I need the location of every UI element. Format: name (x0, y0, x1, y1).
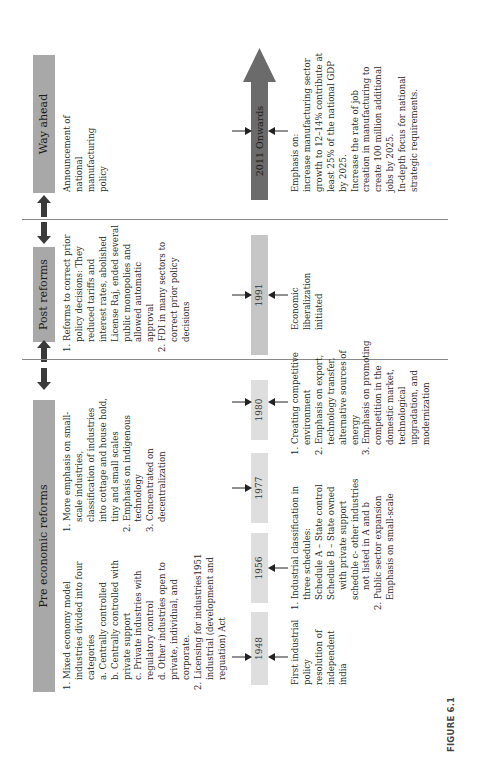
block-arrow-right-icon (37, 195, 51, 217)
pointer-arrow-up-icon (268, 291, 288, 299)
post-reforms-item: 1. Reforms to correct prior policy decis… (62, 224, 157, 352)
pointer-arrow-down-icon (232, 127, 252, 135)
pre-reforms-subitem: c. Private industries with regulatory co… (133, 540, 157, 690)
pointer-arrow-down-icon (232, 484, 252, 492)
timeline-desc-line: 2. Public sector expansion (373, 468, 385, 610)
timeline-desc-2011: Emphasis on: increase manufacturing sect… (290, 52, 421, 192)
timeline-desc-line: Emphasis on small-scale (385, 468, 397, 610)
pre-reforms-col1-text: 1. Mixed economy model industries divide… (62, 540, 229, 690)
pointer-arrow-up-icon (268, 564, 288, 572)
timeline-desc-1956: 1. Industrial classification in three sc… (290, 468, 397, 610)
section-divider (22, 219, 448, 220)
timeline-desc-line: In-depth focus for national strategic re… (397, 52, 421, 192)
pointer-arrow-down-icon (232, 653, 252, 661)
timeline-desc-line: increase manufacturing sector growth to … (302, 52, 350, 192)
timeline-desc-line: Schedule A – State control (314, 468, 326, 610)
timeline-desc-line: 2. Emphasis on export, technology transf… (314, 337, 362, 455)
header-post-reforms: Post reforms (33, 247, 55, 342)
timeline-desc-1991: Economic liberalization initiated (290, 250, 326, 330)
figure-page: Pre economic reforms Post reforms Way ah… (0, 0, 480, 760)
pre-reforms-subitem: d. Other industries open to private, ind… (157, 540, 193, 690)
timeline-desc-line: schedule c- other industries not listed … (350, 468, 374, 610)
rotated-diagram: Pre economic reforms Post reforms Way ah… (0, 0, 480, 760)
pre-reforms-item: 3. Concentrated on decentralization (145, 397, 169, 532)
timeline-desc-1948: First industrial policy resolution of in… (290, 615, 350, 685)
pre-reforms-item: 1. Mixed economy model industries divide… (62, 540, 98, 690)
figure-caption-label: FIGURE 6.1 (446, 697, 456, 752)
block-arrow-left-icon (37, 368, 51, 390)
pointer-arrow-down-icon (232, 398, 252, 406)
block-arrow-left-icon (37, 222, 51, 244)
post-reforms-item: 2. FDI in many sectors to correct prior … (157, 224, 193, 352)
year-box-1977: 1977 (251, 453, 268, 523)
pointer-arrow-up-icon (268, 127, 288, 135)
pointer-arrow-up-icon (268, 398, 288, 406)
timeline-desc-line: 1. Industrial classification in three sc… (290, 468, 314, 610)
timeline-desc-1980: 1. Creating competitive environment 2. E… (290, 337, 433, 455)
year-box-2011-onwards: 2011 Onwards (251, 82, 268, 200)
pre-reforms-item: 1. More emphasis on small-scale industri… (62, 397, 122, 532)
pre-reforms-item: 2. Emphasis on indigenous technology (122, 397, 146, 532)
timeline-desc-line: First industrial policy resolution of in… (290, 615, 350, 685)
pointer-arrow-down-icon (232, 291, 252, 299)
timeline-desc-line: 3. Emphasis on promoting competition in … (361, 337, 432, 455)
post-reforms-text: 1. Reforms to correct prior policy decis… (62, 224, 193, 352)
year-box-1956: 1956 (251, 533, 268, 603)
timeline-desc-line: 1. Creating competitive environment (290, 337, 314, 455)
header-pre-economic-reforms: Pre economic reforms (33, 400, 55, 692)
year-box-1948: 1948 (251, 612, 268, 685)
way-ahead-item: Announcement of national manufacturing p… (62, 112, 110, 192)
header-way-ahead: Way ahead (33, 55, 55, 193)
pre-reforms-col2-text: 1. More emphasis on small-scale industri… (62, 397, 169, 532)
timeline-desc-line: Schedule B – State owned with private su… (326, 468, 350, 610)
pre-reforms-item: 2. Licensing for industries1951 industri… (193, 540, 229, 690)
year-box-1980: 1980 (251, 380, 268, 440)
timeline-desc-line: Emphasis on: (290, 52, 302, 192)
way-ahead-text: Announcement of national manufacturing p… (62, 112, 110, 192)
pointer-arrow-up-icon (268, 653, 288, 661)
pre-reforms-subitem: a. Centrally controlled (98, 540, 110, 690)
timeline-desc-line: Increase the rate of job creation in man… (350, 52, 398, 192)
year-box-1991: 1991 (251, 235, 268, 355)
pre-reforms-subitem: b. Centrally controlled with private sup… (110, 540, 134, 690)
timeline-desc-line: Economic liberalization initiated (290, 250, 326, 330)
